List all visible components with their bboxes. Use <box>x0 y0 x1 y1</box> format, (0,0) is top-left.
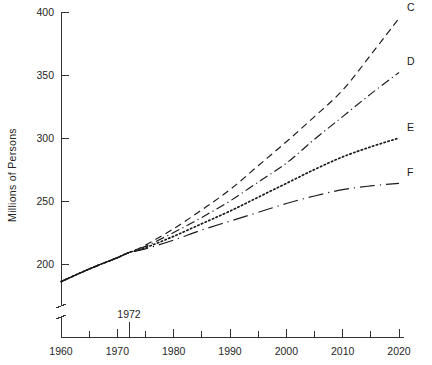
x-tick-label: 2010 <box>331 345 355 357</box>
y-axis-break-icon <box>56 304 66 319</box>
y-axis-title: Millions of Persons <box>6 128 18 222</box>
chart-canvas: 200250300350400 Millions of Persons 1960… <box>0 0 432 365</box>
x-tick-label: 1960 <box>49 345 73 357</box>
annotation-1972: 1972 <box>117 308 141 337</box>
y-axis: 200250300350400 <box>36 6 69 337</box>
annotation-1972-label: 1972 <box>117 308 141 320</box>
x-axis: 1960197019801990200020102020 <box>49 329 411 357</box>
series-label-D: D <box>407 55 415 67</box>
series-label-group: CDEF <box>407 1 415 178</box>
x-tick-label: 1970 <box>106 345 130 357</box>
series-line-F <box>61 183 399 281</box>
population-projection-chart: 200250300350400 Millions of Persons 1960… <box>0 0 432 365</box>
x-tick-label: 1990 <box>218 345 242 357</box>
series-line-C <box>61 18 399 281</box>
x-tick-label: 1980 <box>162 345 186 357</box>
series-label-F: F <box>407 166 413 178</box>
series-label-C: C <box>407 1 415 13</box>
y-tick-label-group: 200250300350400 <box>36 6 54 270</box>
y-tick-label: 400 <box>36 6 54 18</box>
series-group <box>61 18 399 281</box>
y-tick-label: 300 <box>36 132 54 144</box>
y-tick-label: 250 <box>36 195 54 207</box>
x-tick-label: 2020 <box>387 345 411 357</box>
series-line-historical <box>61 253 129 282</box>
series-label-E: E <box>407 121 414 133</box>
y-tick-group <box>61 12 69 264</box>
x-tick-group <box>61 329 399 337</box>
y-tick-label: 200 <box>36 258 54 270</box>
x-tick-label-group: 1960197019801990200020102020 <box>49 345 411 357</box>
y-tick-label: 350 <box>36 69 54 81</box>
series-line-D <box>61 72 399 281</box>
x-tick-label: 2000 <box>275 345 299 357</box>
